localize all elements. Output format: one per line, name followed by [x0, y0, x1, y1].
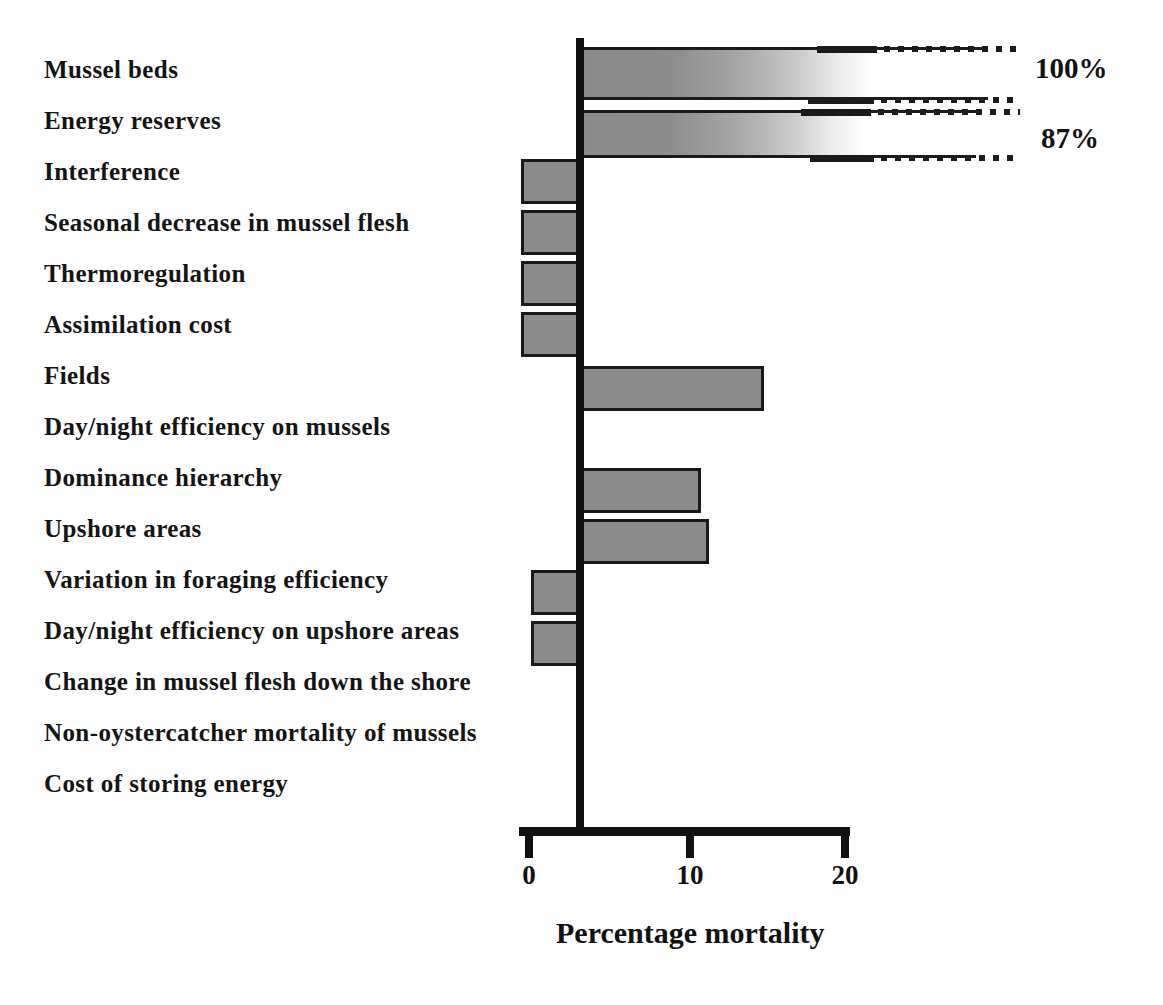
bar-break-dots-top-2: [878, 109, 1020, 115]
x-axis-title: Percentage mortality: [556, 918, 825, 948]
bar-break-stub-top-2: [801, 109, 871, 116]
x-tick-label-20: 20: [832, 862, 859, 889]
value-axis-line: [519, 827, 850, 836]
bar-energy-reserves: [584, 110, 976, 158]
category-axis-line: [576, 38, 584, 833]
plot-area: 0 10 20 100% 87% Percentage mortality: [0, 0, 1163, 1005]
bar-break-dots-top-1: [884, 46, 1020, 52]
bar-assimilation-cost: [521, 312, 581, 357]
value-annotation-energy-reserves: 87%: [1041, 124, 1099, 153]
bar-break-dots-bottom-1: [881, 97, 1020, 103]
x-tick-10: [686, 836, 694, 858]
bar-fields: [578, 366, 764, 411]
bar-break-stub-bottom-1: [808, 97, 874, 104]
x-tick-20: [841, 836, 849, 858]
bar-break-stub-top-1: [817, 46, 877, 53]
bar-mussel-beds: [584, 47, 988, 100]
bar-gradient-fill: [584, 47, 988, 100]
bar-upshore-areas: [578, 519, 709, 564]
bar-break-stub-bottom-2: [810, 155, 874, 162]
x-tick-0: [525, 836, 533, 858]
bar-dominance-hierarchy: [578, 468, 701, 513]
bar-daynight-efficiency-on-upshore-areas: [531, 621, 581, 666]
x-tick-label-10: 10: [677, 862, 704, 889]
bar-gradient-fill: [584, 110, 976, 158]
value-annotation-mussel-beds: 100%: [1035, 54, 1108, 83]
chart-page: Mussel beds Energy reserves Interference…: [0, 0, 1163, 1005]
x-tick-label-0: 0: [522, 862, 536, 889]
bar-break-dots-bottom-2: [881, 155, 1020, 161]
bar-variation-in-foraging-efficiency: [531, 570, 581, 615]
bar-thermoregulation: [521, 261, 581, 306]
bar-interference: [521, 159, 581, 204]
bar-seasonal-decrease-in-mussel-flesh: [521, 210, 581, 255]
